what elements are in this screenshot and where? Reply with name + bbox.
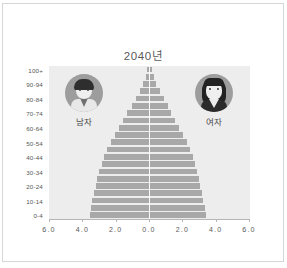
x-tick-mark [116,219,117,222]
bar-female [150,125,179,131]
x-tick-mark [49,219,50,222]
population-pyramid-figure: 2040년 남자 여자 [0,0,287,268]
bar-female [150,96,164,102]
bar-female [150,118,175,124]
y-tick-label: 70-74 [26,110,43,117]
legend-male-label: 남자 [61,115,107,127]
x-tick-mark [216,219,217,222]
female-avatar-icon [195,74,233,112]
bar-male [132,103,150,109]
bar-female [150,139,187,145]
y-tick-label: 60-64 [26,124,43,131]
bar-female [150,205,205,211]
y-tick-label: 30-34 [26,168,43,175]
bar-female [150,81,156,87]
bar-male [107,147,149,153]
bar-female [150,110,171,116]
bar-female [150,212,206,218]
y-tick-label: 0-4 [33,212,43,219]
bar-male [127,110,149,116]
plot-area: 남자 여자 [49,66,250,219]
bar-female [150,147,190,153]
bar-male [92,198,149,204]
bar-female [150,176,199,182]
bar-male [111,139,149,145]
x-tick-mark [182,219,183,222]
x-tick-label: 6.0 [42,226,55,233]
bar-male [140,88,149,94]
x-tick-label: 4.0 [209,226,222,233]
x-tick-label: 2.0 [109,226,122,233]
bar-female [150,132,183,138]
bar-male [104,154,149,160]
bar-female [150,190,202,196]
bar-female [150,88,160,94]
page-title: 2040년 [0,47,287,63]
y-tick-label: 10-14 [26,197,43,204]
bar-male [91,205,149,211]
bar-female [150,198,203,204]
bar-male [96,183,149,189]
legend-male: 남자 [61,74,107,127]
y-tick-label: 100+ [28,66,43,73]
bar-female [150,67,152,73]
legend-female-label: 여자 [191,115,237,127]
x-tick-label: 0.0 [142,226,155,233]
x-tick-label: 6.0 [242,226,255,233]
bar-female [150,161,195,167]
x-tick-mark [249,219,250,222]
bar-female [150,154,193,160]
bar-female [150,103,168,109]
bar-male [119,125,149,131]
y-tick-label: 20-24 [26,183,43,190]
male-avatar-icon [65,74,103,112]
y-tick-label: 50-54 [26,139,43,146]
bar-female [150,169,197,175]
x-tick-mark [82,219,83,222]
bar-female [150,183,200,189]
bar-male [123,118,149,124]
y-tick-label: 40-44 [26,154,43,161]
y-tick-label: 80-84 [26,95,43,102]
bar-male [94,190,149,196]
x-tick-mark [149,219,150,222]
bar-male [90,212,149,218]
bar-male [115,132,149,138]
bar-male [136,96,149,102]
x-tick-label: 4.0 [76,226,89,233]
legend-female: 여자 [191,74,237,127]
y-tick-label: 90-94 [26,81,43,88]
x-tick-label: 2.0 [176,226,189,233]
center-axis-line [149,66,150,219]
bar-male [97,176,149,182]
bar-male [99,169,149,175]
y-axis: 0-410-1420-2430-3440-4450-5460-6470-7480… [0,66,46,219]
bar-female [150,74,154,80]
bar-male [102,161,150,167]
